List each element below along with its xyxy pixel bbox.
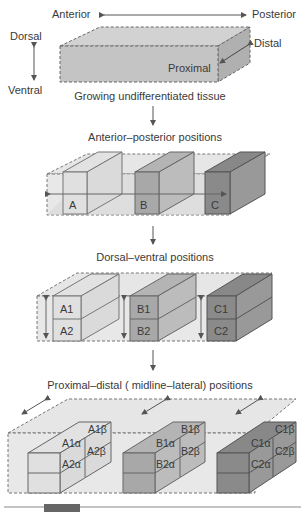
box-b2-label: B2 [137, 325, 150, 337]
box-a1-alpha-label: A1α [62, 437, 81, 449]
box-c2-label: C2 [214, 325, 228, 337]
dorsal-label: Dorsal [10, 30, 42, 42]
box-c1-beta-label: C1β [275, 423, 294, 435]
stage-2-caption: Anterior–posterior positions [88, 131, 222, 143]
box-a2-beta-label: A2β [87, 445, 106, 457]
positional-diagram: Anterior Posterior Dorsal Ventral Distal… [0, 0, 301, 512]
box-a-label: A [69, 199, 77, 211]
box-b2-alpha-label: B2α [156, 458, 175, 470]
dorsal-ventral-block: A1 A2 B1 B2 C1 C2 [37, 273, 272, 341]
anterior-label: Anterior [52, 8, 91, 20]
box-c1-alpha-label: C1α [251, 437, 271, 449]
stage-4-caption: Proximal–distal ( midline–lateral) posit… [47, 379, 253, 391]
ventral-label: Ventral [8, 84, 42, 96]
box-b-label: B [140, 199, 147, 211]
undifferentiated-tissue-block: Proximal [60, 27, 250, 82]
box-b2-beta-label: B2β [181, 445, 200, 457]
box-c-label: C [211, 199, 219, 211]
box-b1-beta-label: B1β [181, 423, 200, 435]
box-c2-beta-label: C2β [275, 445, 294, 457]
stage-1-caption: Growing undifferentiated tissue [74, 90, 225, 102]
stage-3-caption: Dorsal–ventral positions [96, 251, 214, 263]
box-b1-alpha-label: B1α [156, 437, 175, 449]
box-b1-label: B1 [137, 303, 150, 315]
box-a1-beta-label: A1β [88, 423, 107, 435]
distal-label: Distal [254, 37, 282, 49]
proximal-distal-arrow-icon [22, 400, 45, 414]
box-c2-alpha-label: C2α [251, 458, 271, 470]
box-a1-label: A1 [60, 303, 73, 315]
box-c1-label: C1 [214, 303, 228, 315]
posterior-label: Posterior [252, 8, 296, 20]
footer-tab [44, 504, 80, 512]
box-a2-alpha-label: A2α [62, 458, 81, 470]
proximal-label: Proximal [168, 62, 211, 74]
proximal-distal-block: A1α A2α A1β A2β B1α B2α B1β B2β C1α C2α … [8, 399, 296, 493]
box-a2-label: A2 [60, 325, 73, 337]
anterior-posterior-block: A B C [47, 152, 270, 215]
